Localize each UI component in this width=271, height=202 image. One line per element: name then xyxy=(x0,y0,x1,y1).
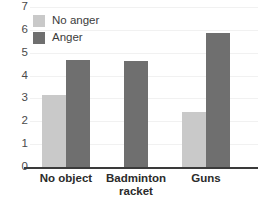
bar-badminton-racket-anger xyxy=(124,61,148,167)
legend-swatch-icon-anger xyxy=(33,32,45,44)
bar-no-object-no-anger xyxy=(42,95,66,167)
x-axis-line xyxy=(24,167,258,169)
x-axis-label-line: racket xyxy=(86,185,186,198)
legend-label-anger: Anger xyxy=(52,32,83,44)
y-axis-tick-label: 4 xyxy=(4,70,28,82)
legend-item-anger: Anger xyxy=(33,30,99,45)
legend-swatch-icon-no-anger xyxy=(33,15,45,27)
y-axis-tick-label: 7 xyxy=(4,1,28,13)
x-axis-label-line: Guns xyxy=(156,172,256,185)
legend-item-no-anger: No anger xyxy=(33,13,99,28)
x-axis-label-guns: Guns xyxy=(156,172,256,185)
y-axis-tick-label: 5 xyxy=(4,47,28,59)
y-axis-tick-label: 1 xyxy=(4,138,28,150)
y-axis-tick-label: 2 xyxy=(4,116,28,128)
bar-guns-no-anger xyxy=(182,112,206,167)
bar-guns-anger xyxy=(206,33,230,167)
legend-label-no-anger: No anger xyxy=(52,15,99,27)
bar-no-object-anger xyxy=(66,60,90,167)
y-axis-tick-label: 6 xyxy=(4,24,28,36)
legend: No anger Anger xyxy=(33,13,99,47)
bar-chart: 01234567 No objectBadmintonracketGuns No… xyxy=(0,0,271,202)
gridline xyxy=(30,7,258,8)
y-axis-tick-label: 3 xyxy=(4,93,28,105)
